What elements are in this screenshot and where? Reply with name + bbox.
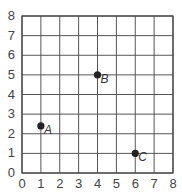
data-points: ABC xyxy=(37,71,147,164)
point-label: A xyxy=(43,123,52,137)
x-tick-label: 1 xyxy=(37,176,44,191)
point-label: B xyxy=(101,72,109,86)
y-tick-label: 7 xyxy=(8,28,15,43)
y-tick-label: 3 xyxy=(8,106,15,121)
point-b: B xyxy=(94,71,109,86)
point-c: C xyxy=(132,150,148,165)
y-tick-label: 1 xyxy=(8,145,15,160)
y-tick-label: 4 xyxy=(8,87,15,102)
grid-lines xyxy=(22,16,173,173)
y-tick-label: 0 xyxy=(8,165,15,180)
y-axis-ticks: 012345678 xyxy=(8,8,15,180)
y-tick-label: 6 xyxy=(8,47,15,62)
y-tick-label: 8 xyxy=(8,8,15,23)
coordinate-grid-chart: 012345678 012345678 ABC xyxy=(0,0,182,193)
x-tick-label: 0 xyxy=(18,176,25,191)
y-tick-label: 2 xyxy=(8,126,15,141)
point-label: C xyxy=(138,150,147,164)
x-tick-label: 6 xyxy=(132,176,139,191)
y-tick-label: 5 xyxy=(8,67,15,82)
x-tick-label: 2 xyxy=(56,176,63,191)
point-a: A xyxy=(37,122,52,137)
x-tick-label: 5 xyxy=(113,176,120,191)
x-tick-label: 4 xyxy=(94,176,101,191)
x-tick-label: 8 xyxy=(169,176,176,191)
x-tick-label: 3 xyxy=(75,176,82,191)
x-tick-label: 7 xyxy=(151,176,158,191)
x-axis-ticks: 012345678 xyxy=(18,176,176,191)
